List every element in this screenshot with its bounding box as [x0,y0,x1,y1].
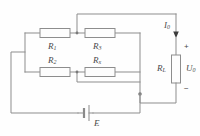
resistor-r1-body [40,29,70,38]
resistor-r3-label: R3 [93,42,102,51]
i0-subscript: 0 [167,24,170,30]
polarity-plus-sign: + [184,43,189,51]
junction-dot-bottom-middle [76,71,79,74]
battery-e-label: E [94,119,100,128]
r2-subscript: 2 [54,59,57,65]
rx-subscript: x [99,59,102,65]
current-i0-label: I0 [164,21,170,30]
wire-battery-to-junction [93,94,140,113]
resistor-rx-label: Rx [93,56,101,65]
circuit-schematic-svg [0,0,200,136]
load-resistor-rl-body [172,55,181,83]
r3-subscript: 3 [99,45,102,51]
wire-left-to-battery [11,52,78,113]
wire-load-return [140,83,176,103]
circuit-diagram: R1 R3 R2 Rx RL U0 I0 + − E [0,0,200,136]
resistor-r2-body [40,68,70,77]
resistor-rx-body [85,68,115,77]
load-resistor-rl-label: RL [157,64,166,73]
voltage-u0-label: U0 [186,64,196,73]
resistor-r3-body [85,29,115,38]
r1-subscript: 1 [54,45,57,51]
rl-subscript: L [163,67,166,73]
current-arrow-i0 [173,32,179,39]
polarity-minus-sign: − [184,85,189,93]
resistor-r2-label: R2 [48,56,57,65]
junction-dot-top-middle [76,32,79,35]
u0-subscript: 0 [193,67,196,73]
resistor-r1-label: R1 [48,42,57,51]
